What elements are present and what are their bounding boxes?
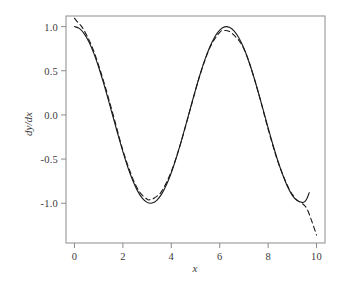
x-axis-ticks (74, 243, 316, 248)
x-tick-label: 0 (72, 251, 77, 262)
x-tick-label: 4 (169, 251, 174, 262)
x-tick-label: 8 (265, 251, 270, 262)
plot-frame (66, 16, 325, 243)
x-tick-label: 10 (311, 251, 322, 262)
axes-frame (61, 16, 325, 248)
y-tick-label: 0.5 (30, 65, 58, 76)
y-tick-label: -1.0 (30, 198, 58, 209)
x-axis-title: x (193, 262, 198, 274)
plot-canvas (0, 0, 343, 286)
y-tick-label: 1.0 (30, 21, 58, 32)
y-tick-label: -0.5 (30, 154, 58, 165)
y-tick-label: 0.0 (30, 109, 58, 120)
x-tick-label: 6 (217, 251, 222, 262)
y-axis-ticks (61, 27, 66, 204)
chart-figure: x dy/dx 0246810 1.00.50.0-0.5-1.0 (0, 0, 343, 286)
x-tick-label: 2 (120, 251, 125, 262)
